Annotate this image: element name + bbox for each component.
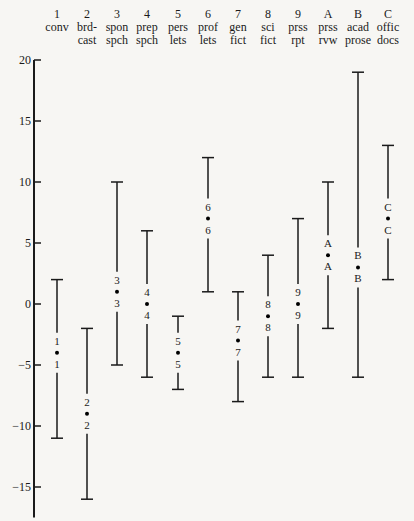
column-label-line2: rvw: [319, 33, 338, 47]
mean-code-above: 2: [84, 396, 90, 408]
column-label-line2: spch: [136, 33, 158, 47]
mean-marker-icon: [296, 302, 300, 306]
column-code: 4: [144, 7, 150, 21]
column-code: 3: [114, 7, 120, 21]
mean-code-below: 8: [265, 321, 271, 333]
mean-code-above: B: [354, 249, 361, 261]
y-axis-tick-label: 10: [19, 175, 31, 189]
mean-code-below: B: [354, 272, 361, 284]
mean-code-above: 9: [295, 286, 301, 298]
column-code: 9: [295, 7, 301, 21]
mean-code-below: C: [384, 224, 391, 236]
column-code: B: [354, 7, 362, 21]
column-label-line1: sci: [261, 20, 275, 34]
y-axis-tick-label: 20: [19, 53, 31, 67]
column-label-line1: conv: [45, 20, 68, 34]
column-label-line1: brd-: [77, 20, 97, 34]
mean-code-below: 1: [54, 358, 60, 370]
column-label-line2: cast: [78, 33, 97, 47]
column-code: C: [384, 7, 392, 21]
mean-marker-icon: [85, 412, 89, 416]
mean-code-below: 3: [114, 297, 120, 309]
column-code: 7: [235, 7, 241, 21]
mean-marker-icon: [386, 217, 390, 221]
mean-marker-icon: [176, 351, 180, 355]
y-axis-tick-label: −15: [12, 480, 31, 494]
column-code: 6: [205, 7, 211, 21]
column-label-line2: lets: [170, 33, 187, 47]
column-code: 2: [84, 7, 90, 21]
mean-code-above: 7: [235, 323, 241, 335]
column-code: 8: [265, 7, 271, 21]
column-label-line2: docs: [377, 33, 399, 47]
mean-code-above: 4: [144, 286, 150, 298]
column-label-line1: spon: [106, 20, 129, 34]
mean-marker-icon: [266, 314, 270, 318]
mean-marker-icon: [115, 290, 119, 294]
column-label-line1: prss: [288, 20, 308, 34]
column-label-line2: prose: [345, 33, 371, 47]
mean-code-below: 9: [295, 309, 301, 321]
column-label-line1: prep: [136, 20, 157, 34]
range-chart: 20151050−5−10−151conv112brd-cast223spons…: [0, 0, 414, 521]
mean-code-below: 2: [84, 419, 90, 431]
y-axis-tick-label: 5: [25, 236, 31, 250]
mean-code-above: 1: [54, 335, 60, 347]
column-code: A: [324, 7, 333, 21]
column-label-line1: offic: [377, 20, 399, 34]
mean-code-below: 5: [175, 358, 181, 370]
column-label-line2: spch: [106, 33, 128, 47]
mean-code-above: 8: [265, 298, 271, 310]
column-label-line2: lets: [200, 33, 217, 47]
mean-code-below: 6: [205, 224, 211, 236]
column-label-line1: pers: [168, 20, 188, 34]
mean-marker-icon: [236, 339, 240, 343]
column-label-line2: fict: [230, 33, 247, 47]
y-axis-tick-label: −10: [12, 419, 31, 433]
column-label-line1: prss: [318, 20, 338, 34]
mean-code-below: 7: [235, 346, 241, 358]
mean-code-above: 5: [175, 335, 181, 347]
mean-code-above: A: [324, 237, 332, 249]
mean-code-above: 6: [205, 201, 211, 213]
column-code: 1: [54, 7, 60, 21]
mean-marker-icon: [206, 217, 210, 221]
mean-marker-icon: [55, 351, 59, 355]
mean-marker-icon: [326, 253, 330, 257]
mean-code-above: 3: [114, 274, 120, 286]
column-label-line2: fict: [260, 33, 277, 47]
mean-code-below: 4: [144, 309, 150, 321]
y-axis-tick-label: 0: [25, 297, 31, 311]
column-label-line1: prof: [198, 20, 218, 34]
y-axis-tick-label: 15: [19, 114, 31, 128]
mean-code-below: A: [324, 260, 332, 272]
column-label-line1: gen: [229, 20, 246, 34]
mean-marker-icon: [145, 302, 149, 306]
column-code: 5: [175, 7, 181, 21]
column-label-line1: acad: [347, 20, 369, 34]
y-axis-tick-label: −5: [18, 358, 31, 372]
mean-code-above: C: [384, 201, 391, 213]
mean-marker-icon: [356, 265, 360, 269]
column-label-line2: rpt: [291, 33, 305, 47]
